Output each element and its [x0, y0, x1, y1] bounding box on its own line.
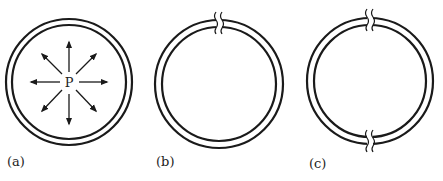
panel-b: (b) — [155, 12, 283, 169]
inner-ring — [314, 25, 426, 137]
panel-a: P (a) — [6, 19, 132, 169]
inner-ring — [162, 27, 276, 141]
panel-label-a: (a) — [7, 154, 25, 169]
break-top-icon — [215, 12, 224, 34]
outer-ring — [307, 18, 433, 144]
arrow-down-left-icon — [42, 90, 62, 111]
arrow-up-left-icon — [42, 54, 62, 74]
arrow-down-right-icon — [76, 90, 96, 111]
break-bottom-icon — [366, 130, 375, 152]
panel-label-c: (c) — [309, 156, 326, 171]
arrow-up-right-icon — [76, 54, 96, 74]
break-top-icon — [366, 9, 375, 31]
panel-label-b: (b) — [156, 154, 174, 169]
panel-c: (c) — [307, 9, 433, 171]
outer-ring — [155, 20, 283, 148]
diagram-canvas: P (a) (b) (c) — [0, 0, 443, 181]
pressure-label: P — [65, 75, 74, 90]
